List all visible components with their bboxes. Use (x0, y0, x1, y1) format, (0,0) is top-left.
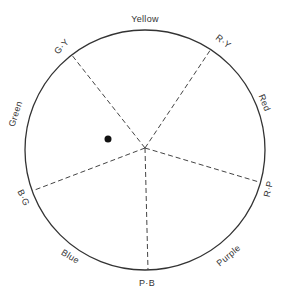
spoke-r-p (145, 148, 259, 182)
spoke-r-y (145, 49, 211, 148)
boundary-label-p-b: P·B (139, 278, 155, 288)
hue-label-purple: Purple (215, 243, 243, 269)
hue-label-yellow: Yellow (131, 14, 159, 24)
boundary-label-g-y: G·Y (52, 37, 71, 56)
spoke-b-g (32, 148, 145, 191)
boundary-label-r-p: R·P (262, 180, 275, 198)
spokes-group (32, 49, 259, 270)
sample-point-marker (105, 136, 112, 143)
spoke-p-b (145, 148, 148, 270)
color-wheel-diagram: YellowRedPurpleBlueGreen G·YR·YR·PP·BB·G (0, 0, 286, 292)
spoke-g-y (71, 54, 145, 148)
boundary-label-b-g: B·G (15, 188, 31, 208)
hue-label-green: Green (7, 100, 25, 128)
boundary-label-r-y: R·Y (214, 33, 233, 51)
hue-label-red: Red (257, 93, 273, 113)
